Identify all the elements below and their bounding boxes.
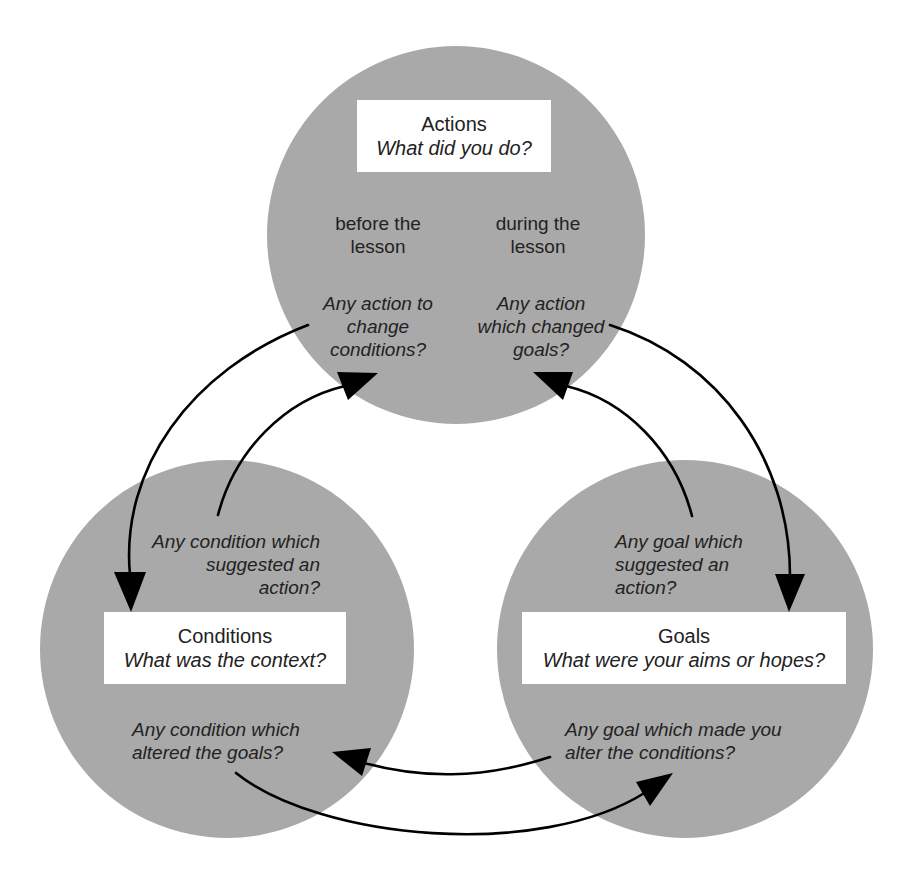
goals-label-box: Goals What were your aims or hopes? xyxy=(522,612,846,684)
actions-before-heading: before the lesson xyxy=(310,212,446,258)
actions-question: What did you do? xyxy=(357,136,551,160)
actions-label-box: Actions What did you do? xyxy=(357,100,551,172)
goals-top-prompt: Any goal which suggested an action? xyxy=(615,530,775,599)
actions-right-prompt: Any action which changed goals? xyxy=(462,292,620,361)
conditions-bottom-prompt: Any condition which altered the goals? xyxy=(132,718,342,764)
diagram-canvas: Actions What did you do? Conditions What… xyxy=(0,0,906,887)
actions-during-heading: during the lesson xyxy=(470,212,606,258)
conditions-label-box: Conditions What was the context? xyxy=(104,612,346,684)
conditions-title: Conditions xyxy=(104,624,346,648)
actions-left-prompt: Any action to change conditions? xyxy=(308,292,448,361)
arrow-goals-to-conditions xyxy=(364,757,550,774)
actions-title: Actions xyxy=(357,112,551,136)
goals-bottom-prompt: Any goal which made you alter the condit… xyxy=(565,718,825,764)
conditions-question: What was the context? xyxy=(104,648,346,672)
conditions-top-prompt: Any condition which suggested an action? xyxy=(120,530,320,599)
goals-title: Goals xyxy=(522,624,846,648)
goals-question: What were your aims or hopes? xyxy=(522,648,846,672)
